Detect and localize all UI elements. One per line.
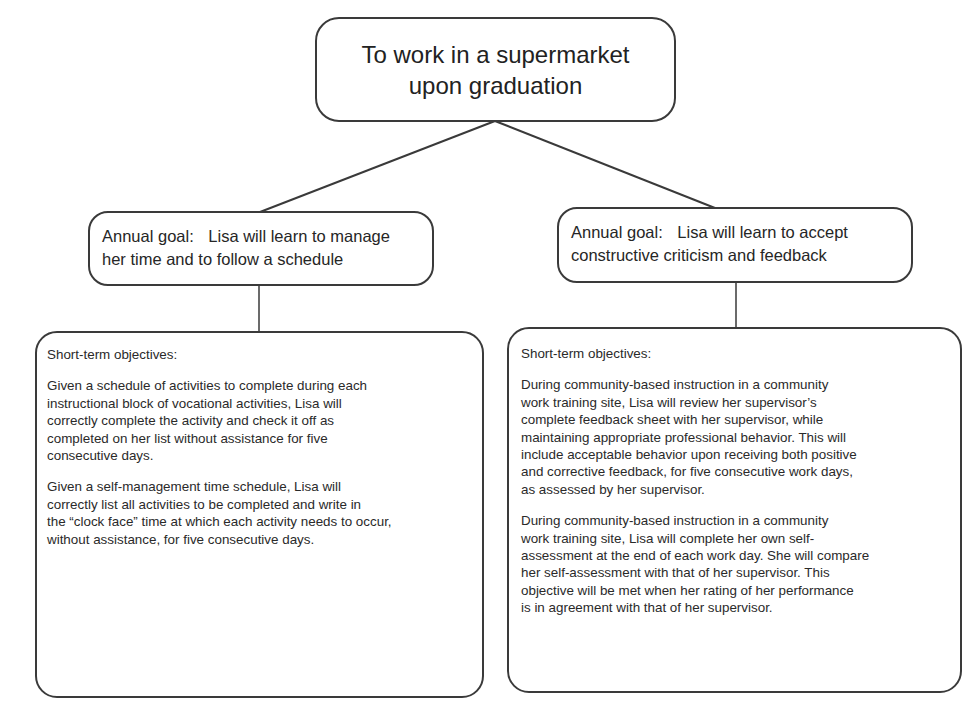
connector-goal-to-left-annual: [260, 121, 495, 212]
connector-goal-to-right-annual: [495, 121, 715, 208]
annual-goal-label: Annual goal:: [102, 227, 194, 245]
annual-goal-left-line-1: Annual goal: Lisa will learn to manage: [102, 225, 432, 248]
annual-goal-box-right: Annual goal: Lisa will learn to accept c…: [557, 207, 913, 283]
objective-item: Given a self-management time schedule, L…: [47, 478, 472, 548]
top-goal-box: To work in a supermarket upon graduation: [315, 17, 676, 122]
annual-goal-right-line-1: Annual goal: Lisa will learn to accept: [571, 221, 911, 244]
objective-item: During community-based instruction in a …: [521, 512, 950, 616]
annual-goal-right-line-2: constructive criticism and feedback: [571, 244, 911, 267]
objective-item: During community-based instruction in a …: [521, 376, 950, 498]
top-goal-line-1: To work in a supermarket: [361, 39, 629, 70]
objectives-heading: Short-term objectives:: [521, 345, 950, 362]
annual-goal-text: Lisa will learn to manage: [208, 227, 390, 245]
annual-goal-text: Lisa will learn to accept: [677, 223, 848, 241]
objectives-box-left: Short-term objectives: Given a schedule …: [35, 331, 484, 698]
top-goal-line-2: upon graduation: [409, 70, 582, 101]
objectives-box-right: Short-term objectives: During community-…: [507, 327, 962, 693]
annual-goal-label: Annual goal:: [571, 223, 663, 241]
annual-goal-left-line-2: her time and to follow a schedule: [102, 248, 432, 271]
objective-item: Given a schedule of activities to comple…: [47, 377, 472, 464]
annual-goal-box-left: Annual goal: Lisa will learn to manage h…: [88, 211, 434, 286]
objectives-heading: Short-term objectives:: [47, 346, 472, 363]
